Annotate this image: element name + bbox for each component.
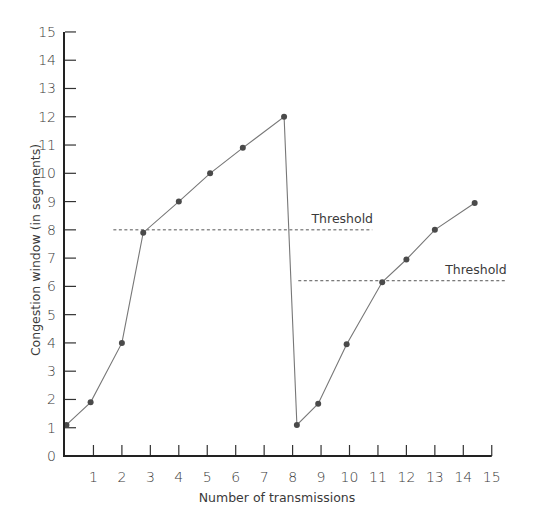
y-tick-label: 3 xyxy=(47,363,56,379)
data-point xyxy=(176,199,182,205)
x-tick-label: 9 xyxy=(317,469,326,485)
data-point xyxy=(240,145,246,151)
data-point xyxy=(88,399,94,405)
y-tick-label: 13 xyxy=(38,80,56,96)
y-tick-label: 9 xyxy=(47,194,56,210)
x-tick-label: 7 xyxy=(260,469,269,485)
x-tick-label: 15 xyxy=(483,469,501,485)
series-group xyxy=(63,114,477,428)
y-axis-title: Congestion window (in segments) xyxy=(28,144,43,356)
y-tick-label: 4 xyxy=(47,335,56,351)
y-tick-label: 5 xyxy=(47,307,56,323)
data-point xyxy=(140,230,146,236)
data-point xyxy=(379,279,385,285)
x-tick-label: 4 xyxy=(174,469,183,485)
x-tick-label: 10 xyxy=(341,469,359,485)
y-tick-label: 14 xyxy=(38,52,56,68)
data-point xyxy=(344,341,350,347)
data-point xyxy=(315,401,321,407)
y-tick-label: 12 xyxy=(38,109,56,125)
data-point xyxy=(403,257,409,263)
x-tick-label: 5 xyxy=(203,469,212,485)
data-point xyxy=(207,170,213,176)
data-point xyxy=(472,200,478,206)
data-point xyxy=(281,114,287,120)
series-line xyxy=(66,117,474,425)
x-tick-label: 3 xyxy=(146,469,155,485)
x-tick-label: 6 xyxy=(231,469,240,485)
threshold-label: Threshold xyxy=(310,211,373,226)
x-tick-label: 13 xyxy=(426,469,444,485)
x-tick-label: 14 xyxy=(454,469,472,485)
y-axis-ticks: 0123456789101112131415 xyxy=(38,24,76,464)
x-tick-label: 12 xyxy=(397,469,415,485)
x-tick-label: 11 xyxy=(369,469,387,485)
y-tick-label: 0 xyxy=(47,448,56,464)
data-point xyxy=(432,227,438,233)
data-point xyxy=(119,340,125,346)
y-tick-label: 1 xyxy=(47,420,56,436)
y-tick-label: 8 xyxy=(47,222,56,238)
x-tick-label: 2 xyxy=(117,469,126,485)
threshold-label: Threshold xyxy=(444,262,507,277)
x-tick-label: 1 xyxy=(89,469,98,485)
x-axis-title: Number of transmissions xyxy=(199,490,356,505)
data-point xyxy=(294,422,300,428)
y-tick-label: 2 xyxy=(47,391,56,407)
x-tick-label: 8 xyxy=(288,469,297,485)
congestion-window-chart: 0123456789101112131415 12345678910111213… xyxy=(0,0,540,532)
x-axis-ticks: 123456789101112131415 xyxy=(89,445,501,485)
y-tick-label: 15 xyxy=(38,24,56,40)
y-tick-label: 6 xyxy=(47,278,56,294)
y-tick-label: 7 xyxy=(47,250,56,266)
